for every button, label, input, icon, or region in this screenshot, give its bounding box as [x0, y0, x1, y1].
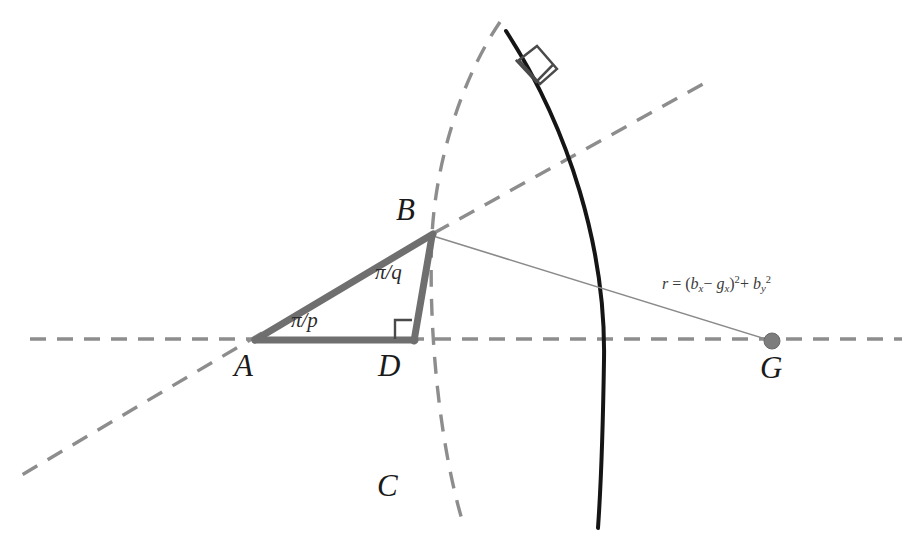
- label-radius-formula: r = (bx− gx)2+ by2: [662, 275, 771, 294]
- triangle-side-d-to-b: [414, 236, 432, 341]
- solid-boundary-arc: [506, 31, 604, 528]
- triangle-side-a-to-b: [255, 234, 433, 340]
- dashed-arc-c: [431, 22, 500, 523]
- formula-token-b1: b: [691, 275, 699, 292]
- formula-token-r: r: [662, 275, 668, 292]
- dashed-ray-through-a: [20, 333, 262, 476]
- diagram-canvas: A B C D G π/p π/q r = (bx− gx)2+ by2: [0, 0, 922, 550]
- formula-token-equals: =: [672, 275, 681, 292]
- label-vertex-g: G: [760, 352, 782, 383]
- label-angle-pi-over-p: π/p: [291, 310, 318, 331]
- formula-token-plus: +: [740, 275, 749, 292]
- label-vertex-a: A: [234, 350, 253, 381]
- label-vertex-d: D: [378, 350, 400, 381]
- formula-token-minus: −: [703, 275, 712, 292]
- point-marker-g: [764, 333, 780, 349]
- label-vertex-b: B: [396, 194, 415, 225]
- label-vertex-c: C: [377, 470, 398, 501]
- label-angle-pi-over-q: π/q: [375, 262, 402, 283]
- formula-token-b2: b: [753, 275, 761, 292]
- geometry-figure: [0, 0, 922, 550]
- formula-token-exponent-2: 2: [766, 274, 771, 285]
- right-angle-marker-at-d: [395, 320, 412, 339]
